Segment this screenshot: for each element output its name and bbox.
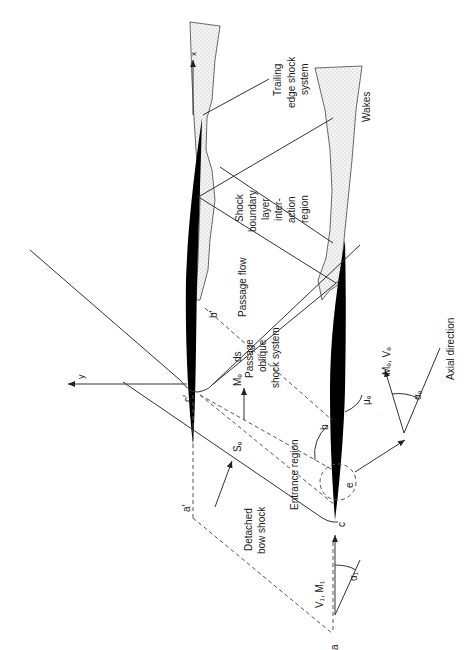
exit-angle-label: αₑ [412,390,423,400]
inlet-angle-ref [335,560,360,615]
wakes-leader [200,118,333,196]
point-a-prime: a′ [181,504,192,512]
passage-oblique-shock-label: Passage oblique shock system [244,327,281,388]
wakes-label: Wakes [361,92,372,122]
axial-direction-label: Axial direction [445,318,456,380]
e-to-exit-arrow [355,440,405,472]
trailing-edge-shock-label: Trailing edge shock system [272,56,310,108]
se-label: Sₑ [232,441,243,452]
svg-text:Passage: Passage [244,339,255,378]
svg-text:shock system: shock system [270,327,281,388]
svg-text:inter-: inter- [273,198,284,221]
mu-e-label: μₑ [361,395,372,405]
entrance-region-label: Entrance region [289,439,300,510]
svg-text:Trailing: Trailing [272,64,283,96]
svg-text:edge shock: edge shock [286,56,297,108]
inlet-angle-arc [335,565,356,570]
passage-flow-label: Passage flow [237,257,248,317]
dashed-entrance-2 [200,395,333,470]
bow-shock-pointer [215,461,232,507]
exit-velocity-arrow [385,370,404,433]
x-axis-label: x [189,52,198,56]
inlet-angle-label: α₁ [348,571,359,581]
axial-direction-line [404,348,440,433]
point-a: a [329,644,340,650]
svg-text:bow shock: bow shock [256,506,267,554]
point-b-prime: b′ [208,310,219,318]
detached-bow-shock-line [123,382,338,522]
exit-flow-label: Mₑ, Vₑ [381,347,392,375]
svg-text:region: region [299,195,310,223]
me-label: Mₑ [232,374,243,386]
svg-text:oblique: oblique [257,339,268,372]
dashed-b-prime-b [205,308,332,420]
mu-e-arc [345,395,362,412]
cascade-diagram: x y Trailing edge shock system Wakes Sho… [0,0,469,650]
inlet-flow-label: V₁, M₁ [314,580,325,608]
svg-text:boundary: boundary [247,190,258,232]
ds-label: ds [232,351,243,362]
point-e: e [344,482,355,488]
y-axis-label: y [76,374,86,379]
svg-text:layer: layer [260,198,271,220]
detached-bow-shock-label: Detached bow shock [243,506,267,554]
svg-text:system: system [299,63,310,95]
point-c-prime: c′ [182,395,193,402]
svg-text:action: action [286,196,297,223]
svg-text:Shock: Shock [234,193,245,222]
svg-text:Detached: Detached [243,508,254,551]
point-c: c [336,522,347,527]
point-b: b [319,424,330,430]
